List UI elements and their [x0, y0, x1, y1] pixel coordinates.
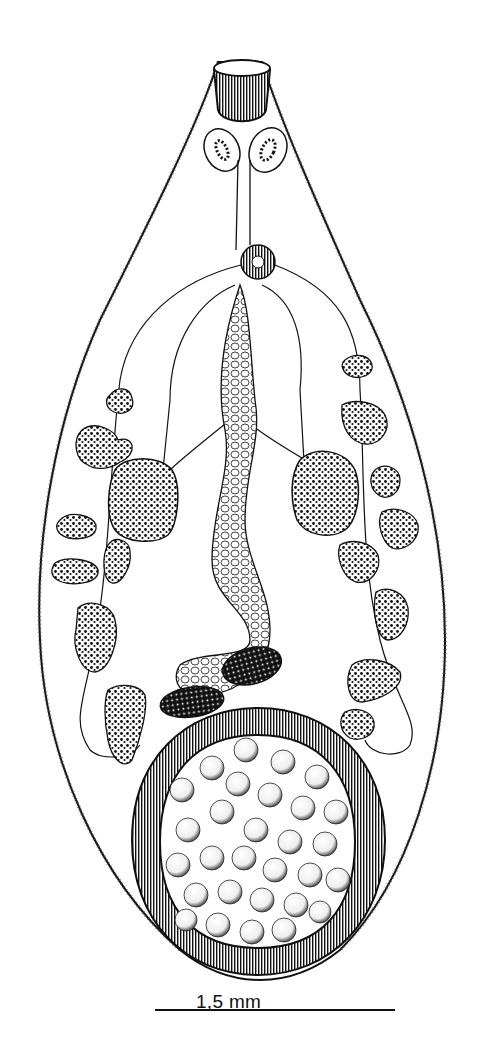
- ventral-sucker-acetabulum: [132, 708, 385, 975]
- scale-bar-label: 1,5 mm: [196, 991, 261, 1013]
- testis-left: [109, 459, 178, 542]
- testis-right: [292, 451, 358, 535]
- fluke-illustration: [0, 0, 487, 1052]
- oral-sucker: [214, 60, 270, 121]
- pharynx-ring: [241, 245, 275, 279]
